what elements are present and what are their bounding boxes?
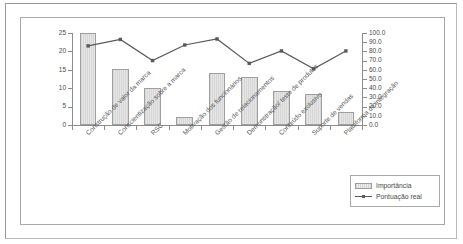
- bar-swatch-icon: [355, 183, 372, 189]
- y-axis-right-tick-label: 100.0: [369, 30, 399, 37]
- y-axis-right-tick-label: 80.0: [369, 48, 399, 55]
- legend-label-importancia: Importância: [376, 182, 412, 189]
- line-path: [88, 39, 346, 69]
- legend-item-pontuacao-real: Pontuação real: [355, 191, 434, 202]
- line-marker: [248, 62, 251, 65]
- y-axis-right-tick-label: 70.0: [369, 57, 399, 64]
- y-axis-left-tick-label: 10: [44, 85, 66, 92]
- x-axis-tick: [298, 126, 299, 130]
- line-marker: [215, 37, 218, 40]
- line-marker: [86, 44, 89, 47]
- x-axis-tick: [136, 126, 137, 130]
- y-axis-left-tick-label: 5: [44, 103, 66, 110]
- line-swatch-icon: [355, 193, 372, 200]
- legend-item-importancia: Importância: [355, 180, 434, 191]
- y-axis-left-tick-label: 15: [44, 67, 66, 74]
- x-axis-tick: [330, 126, 331, 130]
- line-series: [72, 33, 363, 126]
- chart-page: 0510152025 0.010.020.030.040.050.060.070…: [0, 0, 463, 244]
- x-axis-tick: [362, 126, 363, 130]
- line-marker: [119, 38, 122, 41]
- y-axis-right-tick-label: 0.0: [369, 122, 399, 129]
- x-axis-tick: [233, 126, 234, 130]
- x-axis-tick: [72, 126, 73, 130]
- y-axis-right-tick-label: 90.0: [369, 39, 399, 46]
- line-marker: [280, 49, 283, 52]
- y-axis-right-tick-label: 60.0: [369, 67, 399, 74]
- x-axis-tick: [265, 126, 266, 130]
- y-axis-left-tick-label: 20: [44, 48, 66, 55]
- line-marker: [151, 59, 154, 62]
- y-axis-left-tick-label: 0: [44, 122, 66, 129]
- x-axis-tick: [104, 126, 105, 130]
- line-marker: [344, 49, 347, 52]
- legend-label-pontuacao-real: Pontuação real: [376, 193, 422, 200]
- line-marker: [183, 43, 186, 46]
- y-axis-left-tick-label: 25: [44, 30, 66, 37]
- chart-legend: Importância Pontuação real: [350, 175, 440, 207]
- y-axis-right-tick-label: 10.0: [369, 113, 399, 120]
- x-axis-tick: [169, 126, 170, 130]
- x-axis-tick: [201, 126, 202, 130]
